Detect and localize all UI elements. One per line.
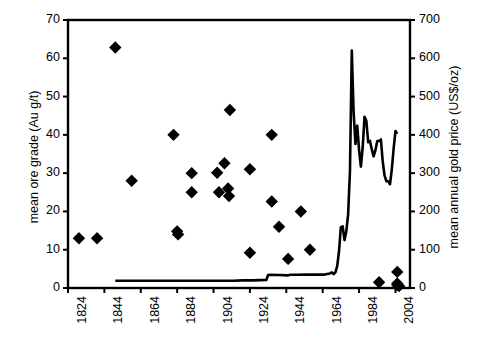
left-tick-label: 40 [30, 127, 60, 141]
x-tick-label: 1904 [221, 296, 235, 339]
left-tick-label: 20 [30, 203, 60, 217]
x-tick-label: 1864 [148, 296, 162, 339]
left-tick-label: 10 [30, 242, 60, 256]
x-tick-label: 1884 [184, 296, 198, 339]
right-tick-label: 200 [419, 203, 453, 217]
right-tick-label: 400 [419, 127, 453, 141]
gold-grade-price-chart: mean ore grade (Au g/t) mean annual gold… [0, 0, 479, 339]
x-tick-label: 1824 [75, 296, 89, 339]
right-axis-title: mean annual gold price (US$/oz) [447, 47, 461, 267]
left-tick-label: 30 [30, 165, 60, 179]
x-tick-label: 1924 [257, 296, 271, 339]
right-tick-label: 0 [419, 280, 453, 294]
right-tick-label: 100 [419, 242, 453, 256]
left-tick-label: 50 [30, 89, 60, 103]
x-tick-label: 2004 [402, 296, 416, 339]
right-tick-label: 700 [419, 12, 453, 26]
right-tick-label: 500 [419, 89, 453, 103]
left-tick-label: 70 [30, 12, 60, 26]
left-tick-label: 60 [30, 50, 60, 64]
x-tick-label: 1984 [366, 296, 380, 339]
x-tick-label: 1944 [293, 296, 307, 339]
left-axis-title: mean ore grade (Au g/t) [27, 57, 41, 257]
left-tick-label: 0 [30, 280, 60, 294]
x-tick-label: 1844 [111, 296, 125, 339]
x-tick-label: 1964 [330, 296, 344, 339]
right-tick-label: 300 [419, 165, 453, 179]
right-tick-label: 600 [419, 50, 453, 64]
plot-canvas [0, 0, 479, 339]
